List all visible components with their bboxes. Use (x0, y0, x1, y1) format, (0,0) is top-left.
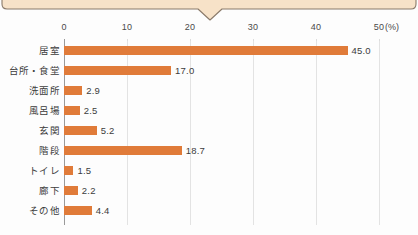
bar (64, 106, 80, 115)
bar-row: 居室45.0 (0, 41, 418, 61)
x-axis-ticks: 0 10 20 30 40 50 (%) (0, 22, 418, 40)
category-label: 階段 (39, 141, 60, 161)
category-label: 玄関 (39, 121, 60, 141)
bar-row: 階段18.7 (0, 141, 418, 161)
value-label: 2.2 (82, 181, 96, 201)
value-label: 2.5 (84, 101, 98, 121)
bar (64, 46, 348, 55)
x-tick-20: 20 (185, 22, 195, 32)
value-label: 5.2 (101, 121, 115, 141)
value-label: 4.4 (96, 201, 110, 221)
value-label: 1.5 (77, 161, 91, 181)
bar (64, 186, 78, 195)
speech-bubble-tail (0, 0, 418, 22)
x-tick-50: 50 (374, 22, 384, 32)
bar-row: その他4.4 (0, 201, 418, 221)
category-label: 廊下 (39, 181, 60, 201)
bar-row: 洗面所2.9 (0, 81, 418, 101)
bar-rows: 居室45.0台所・食堂17.0洗面所2.9風呂場2.5玄関5.2階段18.7トイ… (0, 39, 418, 225)
x-tick-0: 0 (61, 22, 66, 32)
category-label: その他 (29, 201, 60, 221)
bar (64, 86, 82, 95)
chart-screenshot: 0 10 20 30 40 50 (%) 居室45.0台所・食堂17.0洗面所2… (0, 0, 418, 235)
category-label: 洗面所 (29, 81, 60, 101)
bar-row: 台所・食堂17.0 (0, 61, 418, 81)
bar (64, 146, 182, 155)
category-label: 居室 (39, 41, 60, 61)
category-label: 台所・食堂 (9, 61, 61, 81)
x-axis-unit-label: (%) (385, 22, 399, 32)
value-label: 18.7 (186, 141, 205, 161)
value-label: 17.0 (175, 61, 194, 81)
bar (64, 126, 97, 135)
bar (64, 66, 171, 75)
bar-row: 玄関5.2 (0, 121, 418, 141)
bar (64, 206, 92, 215)
category-label: トイレ (29, 161, 60, 181)
x-tick-40: 40 (311, 22, 321, 32)
value-label: 2.9 (86, 81, 100, 101)
plot-area: 0 10 20 30 40 50 (%) 居室45.0台所・食堂17.0洗面所2… (0, 22, 418, 235)
category-label: 風呂場 (29, 101, 60, 121)
bar (64, 166, 73, 175)
bar-row: 廊下2.2 (0, 181, 418, 201)
x-tick-10: 10 (122, 22, 132, 32)
x-tick-30: 30 (248, 22, 258, 32)
value-label: 45.0 (352, 41, 371, 61)
bar-row: トイレ1.5 (0, 161, 418, 181)
bar-row: 風呂場2.5 (0, 101, 418, 121)
